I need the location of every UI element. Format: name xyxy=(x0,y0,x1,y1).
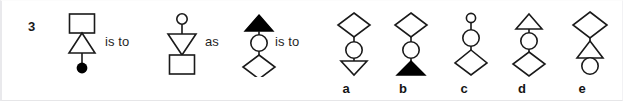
option-a-glyphs xyxy=(330,11,378,77)
option-e-label: e xyxy=(572,81,592,96)
option-b[interactable] xyxy=(387,11,435,77)
diamond-outline-icon xyxy=(395,13,427,37)
diamond-outline-icon xyxy=(513,52,545,76)
diamond-outline-icon xyxy=(573,12,607,38)
option-d-label: d xyxy=(512,81,532,96)
square-outline-icon xyxy=(170,55,195,74)
option-b-label: b xyxy=(393,81,413,96)
option-b-glyphs xyxy=(387,11,435,77)
circle-outline-icon xyxy=(582,58,598,74)
circle-filled-icon xyxy=(77,63,88,74)
option-c[interactable] xyxy=(447,11,495,77)
diamond-outline-icon xyxy=(243,55,275,77)
circle-outline-icon xyxy=(346,42,362,58)
diamond-outline-icon xyxy=(455,50,487,75)
circle-small-outline-icon xyxy=(466,13,475,22)
square-outline-icon xyxy=(70,14,95,33)
option-d-glyphs xyxy=(505,11,553,77)
triangle-down-outline-icon xyxy=(168,34,196,55)
option-c-glyphs xyxy=(447,11,495,77)
diamond-outline-icon xyxy=(338,13,370,37)
connector-text-is-to-2: is to xyxy=(275,34,299,49)
triangle-up-outline-icon xyxy=(516,14,542,29)
figure-a1 xyxy=(60,13,104,77)
triangle-up-filled-icon xyxy=(245,15,273,31)
puzzle-card: 3 is to as is to xyxy=(0,0,623,101)
connector-text-is-to-1: is to xyxy=(105,34,129,49)
option-d[interactable] xyxy=(505,11,553,77)
triangle-up-outline-icon xyxy=(577,41,603,58)
option-a[interactable] xyxy=(330,11,378,77)
option-a-label: a xyxy=(336,81,356,96)
triangle-up-filled-icon xyxy=(397,61,425,75)
circle-small-outline-icon xyxy=(177,14,187,24)
option-c-label: c xyxy=(454,81,474,96)
circle-outline-icon xyxy=(403,42,419,58)
triangle-down-outline-icon xyxy=(341,61,367,75)
circle-outline-icon xyxy=(463,30,479,46)
circle-outline-icon xyxy=(251,35,267,51)
figure-a2 xyxy=(160,13,204,77)
figure-a2-glyphs xyxy=(160,13,204,77)
figure-a1-glyphs xyxy=(60,13,104,77)
option-e[interactable] xyxy=(565,11,615,77)
triangle-up-outline-icon xyxy=(69,33,95,53)
circle-outline-icon xyxy=(521,33,537,49)
question-number: 3 xyxy=(28,19,35,34)
connector-text-as: as xyxy=(205,34,219,49)
option-e-glyphs xyxy=(565,11,615,77)
